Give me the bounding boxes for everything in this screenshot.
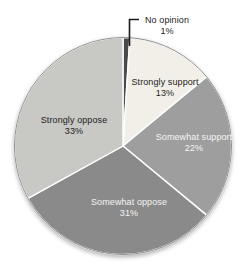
slice-label-percent: 33% xyxy=(41,126,108,137)
slice-label-text: Strongly support xyxy=(131,77,198,88)
pie-chart-figure: No opinion 1% Strongly support 13% Somew… xyxy=(0,0,244,266)
slice-label-text: No opinion xyxy=(145,15,189,26)
slice-label-text: Somewhat support xyxy=(156,132,233,143)
slice-label-percent: 1% xyxy=(145,26,189,37)
slice-label-text: Strongly oppose xyxy=(41,115,108,126)
slice-label-somewhat-support: Somewhat support 22% xyxy=(156,132,233,154)
slice-label-no-opinion: No opinion 1% xyxy=(145,15,189,37)
slice-label-percent: 22% xyxy=(156,143,233,154)
slice-label-strongly-support: Strongly support 13% xyxy=(131,77,198,99)
slice-label-somewhat-oppose: Somewhat oppose 31% xyxy=(91,197,167,219)
slice-label-text: Somewhat oppose xyxy=(91,197,167,208)
slice-label-percent: 13% xyxy=(131,88,198,99)
slice-label-percent: 31% xyxy=(91,208,167,219)
slice-label-strongly-oppose: Strongly oppose 33% xyxy=(41,115,108,137)
